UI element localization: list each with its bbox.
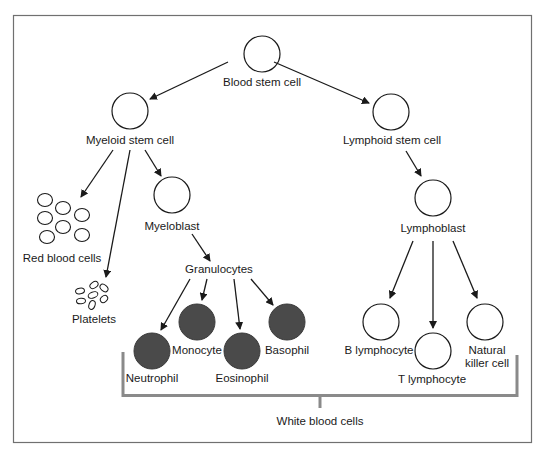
label-eosinophil: Eosinophil xyxy=(215,372,268,385)
label-platelets: Platelets xyxy=(72,313,116,326)
label-b-lymphocyte: B lymphocyte xyxy=(344,344,413,357)
natural-killer-cell-icon xyxy=(467,304,503,340)
arrow-lymphoid-to-lymphoblast xyxy=(406,151,421,176)
label-myeloid-stem-cell: Myeloid stem cell xyxy=(86,134,174,147)
arrow-myeloid-to-myeloblast xyxy=(145,150,161,176)
label-natural-killer-line2: killer cell xyxy=(465,357,509,370)
label-monocyte: Monocyte xyxy=(172,344,222,357)
arrow-stem-to-myeloid xyxy=(150,62,228,99)
monocyte-icon xyxy=(179,304,215,340)
eosinophil-icon xyxy=(224,333,260,369)
label-red-blood-cells: Red blood cells xyxy=(23,252,102,265)
label-neutrophil: Neutrophil xyxy=(126,372,178,385)
basophil-icon xyxy=(269,304,305,340)
arrow-granulocytes-to-eosinophil xyxy=(234,279,240,329)
neutrophil-icon xyxy=(134,333,170,369)
label-granulocytes: Granulocytes xyxy=(185,263,253,276)
lymphoid-stem-cell-icon xyxy=(373,94,409,130)
red-blood-cells-icon xyxy=(38,194,90,244)
label-natural-killer-line1: Natural xyxy=(468,344,505,357)
platelets-icon xyxy=(75,280,109,310)
arrow-myeloid-to-rbc xyxy=(81,150,113,197)
arrow-myeloid-to-platelets xyxy=(106,150,130,277)
lymphoblast-icon xyxy=(415,180,451,216)
label-lymphoblast: Lymphoblast xyxy=(401,222,466,235)
arrow-lymphoblast-to-b xyxy=(390,241,413,298)
arrow-granulocytes-to-basophil xyxy=(251,279,273,305)
label-t-lymphocyte: T lymphocyte xyxy=(398,373,466,386)
b-lymphocyte-icon xyxy=(363,304,399,340)
label-lymphoid-stem-cell: Lymphoid stem cell xyxy=(343,134,441,147)
label-basophil: Basophil xyxy=(265,344,309,357)
t-lymphocyte-icon xyxy=(415,333,451,369)
arrow-granulocytes-to-monocyte xyxy=(202,279,207,300)
arrow-myeloblast-to-granulocytes xyxy=(192,234,210,261)
blood-stem-cell-icon xyxy=(244,36,280,72)
arrow-lymphoblast-to-nk xyxy=(453,241,477,298)
myeloid-stem-cell-icon xyxy=(112,93,148,129)
label-white-blood-cells: White blood cells xyxy=(277,415,364,428)
myeloblast-icon xyxy=(154,177,190,213)
label-myeloblast: Myeloblast xyxy=(145,220,200,233)
label-blood-stem-cell: Blood stem cell xyxy=(223,76,301,89)
